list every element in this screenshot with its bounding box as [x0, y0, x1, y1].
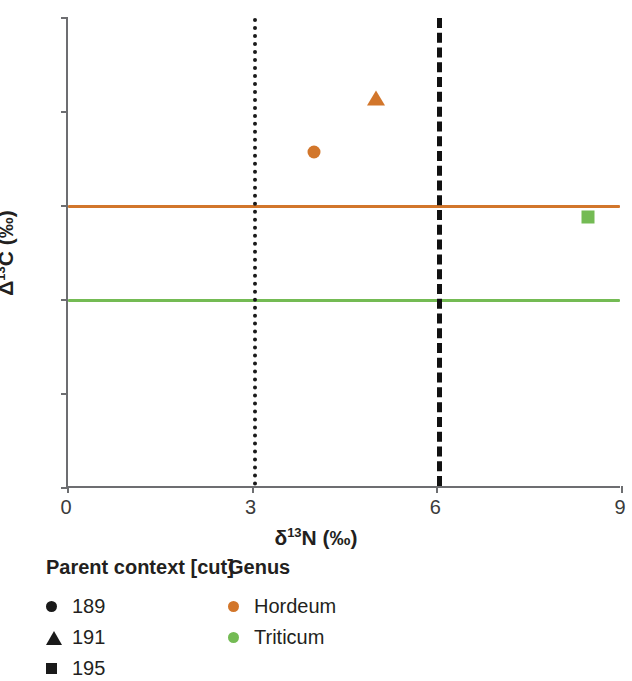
legend-key [228, 601, 254, 612]
circle-marker-icon [46, 601, 57, 612]
x-tick-3 [252, 486, 254, 493]
dot-marker-icon [228, 601, 239, 612]
legend-parent-context: Parent context [cut] 189191195 [46, 556, 234, 681]
legend-item-label: Triticum [254, 626, 324, 649]
y-tick-19 [61, 111, 68, 113]
x-axis-title-text: δ13N (‰) [274, 526, 357, 549]
y-tick-20 [61, 17, 68, 19]
legend-item-context-189[interactable]: 189 [46, 591, 234, 622]
square-marker-icon [46, 663, 57, 674]
legend-key [228, 632, 254, 643]
y-tick-18 [61, 205, 68, 207]
x-tick-0 [67, 486, 69, 493]
x-tick-9 [621, 486, 623, 493]
data-point-hordeum-191[interactable] [367, 91, 385, 106]
y-axis-title-text: Δ13C (‰) [0, 210, 18, 296]
triangle-marker-icon [46, 631, 62, 645]
reference-line-vertical-6 [437, 18, 442, 486]
legend-item-context-195[interactable]: 195 [46, 653, 234, 681]
y-tick-16 [61, 393, 68, 395]
legend-parent-context-items: 189191195 [46, 591, 234, 681]
scatter-plot-figure: 151617181920 Δ13C (‰) 0369 δ13N (‰) Pare… [0, 0, 632, 681]
dot-marker-icon [228, 632, 239, 643]
legend-genus: Genus HordeumTriticum [228, 556, 336, 653]
legend-item-label: Hordeum [254, 595, 336, 618]
plot-area [66, 18, 620, 488]
legend-item-genus-hordeum[interactable]: Hordeum [228, 591, 336, 622]
legend-genus-title: Genus [228, 556, 336, 579]
reference-line-horizontal-17 [68, 299, 620, 302]
y-axis-title: Δ13C (‰) [0, 210, 18, 296]
legend-genus-items: HordeumTriticum [228, 591, 336, 653]
reference-line-horizontal-18 [68, 205, 620, 208]
legend-key [46, 631, 72, 645]
legend-parent-context-title: Parent context [cut] [46, 556, 234, 579]
legend-item-context-191[interactable]: 191 [46, 622, 234, 653]
x-axis-title: δ13N (‰) [0, 526, 632, 550]
x-tick-label-6: 6 [430, 496, 441, 519]
data-point-triticum-195[interactable] [582, 211, 595, 224]
x-tick-6 [436, 486, 438, 493]
legend-item-label: 189 [72, 595, 105, 618]
reference-line-vertical-3 [253, 18, 257, 486]
legend-key [46, 601, 72, 612]
legend-item-label: 195 [72, 657, 105, 680]
legend: Parent context [cut] 189191195 Genus Hor… [46, 556, 606, 676]
legend-key [46, 663, 72, 674]
legend-item-genus-triticum[interactable]: Triticum [228, 622, 336, 653]
y-tick-17 [61, 299, 68, 301]
data-point-hordeum-189[interactable] [308, 146, 321, 159]
legend-item-label: 191 [72, 626, 105, 649]
x-tick-label-0: 0 [60, 496, 71, 519]
x-tick-label-9: 9 [614, 496, 625, 519]
x-tick-label-3: 3 [245, 496, 256, 519]
